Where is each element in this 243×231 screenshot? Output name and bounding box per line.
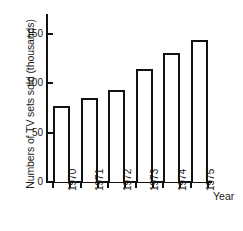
x-axis-tick (52, 181, 54, 188)
y-axis-tick-label: 50 (15, 128, 43, 138)
y-axis-tick-label-text: 0 (17, 177, 43, 187)
x-axis-tick (80, 181, 82, 188)
y-axis-tick-label-text: 150 (17, 29, 43, 39)
x-axis-tick (135, 181, 137, 188)
y-axis-tick-label-text: 50 (17, 128, 43, 138)
x-axis-tick (107, 181, 109, 188)
x-axis-tick-label: 1974 (177, 159, 188, 191)
plot-area (46, 14, 212, 182)
x-axis-tick-label: 1971 (94, 159, 105, 191)
x-axis-tick (162, 181, 164, 188)
x-axis-title: Year (213, 190, 234, 202)
y-axis-tick-label: 0 (15, 177, 43, 187)
x-axis-tick-label: 1970 (67, 159, 78, 191)
x-axis-tick-label: 1973 (149, 159, 160, 191)
x-axis-tick (190, 181, 192, 188)
x-axis-tick-label: 1975 (205, 159, 216, 191)
y-axis-tick-label-text: 100 (17, 78, 43, 88)
y-axis-tick-label: 150 (15, 29, 43, 39)
x-axis-tick-label: 1972 (122, 159, 133, 191)
y-axis-tick-label: 100 (15, 78, 43, 88)
bar-chart-figure: Numbers of TV sets sold (thousands) 1501… (0, 0, 243, 231)
